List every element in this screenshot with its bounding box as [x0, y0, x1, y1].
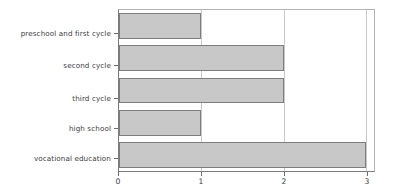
y-axis-label-second-cycle: second cycle	[63, 62, 111, 70]
y-axis-tick-0	[114, 33, 118, 34]
x-axis-tick-1	[201, 172, 202, 176]
x-axis-tick-label-0: 0	[108, 177, 128, 186]
y-axis-tick-2	[114, 98, 118, 99]
y-axis-label-high-school: high school	[69, 125, 111, 133]
y-axis-label-third-cycle: third cycle	[72, 95, 111, 103]
x-axis-tick-0	[118, 172, 119, 176]
bar-third-cycle	[119, 78, 284, 104]
y-axis-tick-4	[114, 158, 118, 159]
x-axis-tick-3	[367, 172, 368, 176]
bar-second-cycle	[119, 45, 284, 71]
x-axis-tick-label-1: 1	[191, 177, 211, 186]
bar-chart-figure: preschool and first cycle second cycle t…	[0, 0, 399, 196]
bar-preschool-and-first-cycle	[119, 13, 201, 39]
x-axis-tick-label-3: 3	[357, 177, 377, 186]
gridline-x-3	[366, 10, 367, 171]
bar-vocational-education	[119, 142, 366, 168]
x-axis-tick-2	[284, 172, 285, 176]
y-axis-tick-1	[114, 65, 118, 66]
y-axis-label-preschool-and-first-cycle: preschool and first cycle	[21, 30, 111, 38]
x-axis-tick-label-2: 2	[274, 177, 294, 186]
plot-area	[118, 9, 375, 172]
bar-high-school	[119, 110, 201, 136]
y-axis-label-vocational-education: vocational education	[34, 155, 111, 163]
y-axis-tick-3	[114, 128, 118, 129]
